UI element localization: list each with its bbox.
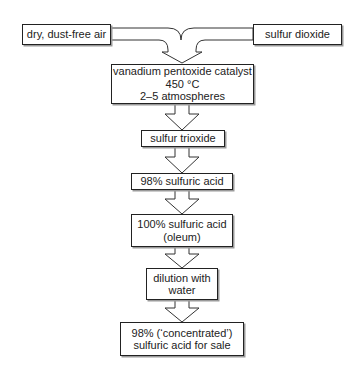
catalyst-line-2: 450 °C: [166, 78, 200, 91]
step-oleum-box: 100% sulfuric acid (oleum): [131, 214, 233, 247]
step-catalyst-box: vanadium pentoxide catalyst 450 °C 2–5 a…: [111, 64, 254, 104]
input-sulfur-dioxide-box: sulfur dioxide: [253, 24, 342, 45]
final-line-1: 98% (‘concentrated’): [132, 327, 233, 340]
step-sulfur-trioxide-box: sulfur trioxide: [141, 130, 225, 147]
merge-arrow: [111, 28, 253, 63]
arrow-98-to-100: [165, 190, 199, 214]
input-sulfur-dioxide-label: sulfur dioxide: [265, 28, 330, 41]
catalyst-line-3: 2–5 atmospheres: [140, 90, 225, 103]
step-final-product-box: 98% (‘concentrated’) sulfuric acid for s…: [120, 322, 244, 356]
98-sulfuric-label: 98% sulfuric acid: [140, 175, 223, 188]
step-dilution-box: dilution with water: [146, 268, 218, 300]
oleum-line-2: (oleum): [163, 231, 200, 244]
step-98-sulfuric-box: 98% sulfuric acid: [131, 173, 233, 190]
arrow-100-to-dilution: [165, 247, 199, 268]
final-line-2: sulfuric acid for sale: [133, 339, 230, 352]
dilution-line-2: water: [169, 284, 196, 297]
input-air-box: dry, dust-free air: [22, 24, 111, 45]
arrow-dilution-to-final: [165, 300, 199, 322]
arrow-catalyst-to-trioxide: [165, 104, 199, 130]
input-air-label: dry, dust-free air: [27, 28, 106, 41]
dilution-line-1: dilution with: [153, 272, 210, 285]
sulfur-trioxide-label: sulfur trioxide: [150, 132, 215, 145]
arrow-trioxide-to-98: [165, 147, 199, 173]
catalyst-line-1: vanadium pentoxide catalyst: [113, 65, 252, 78]
oleum-line-1: 100% sulfuric acid: [137, 218, 226, 231]
